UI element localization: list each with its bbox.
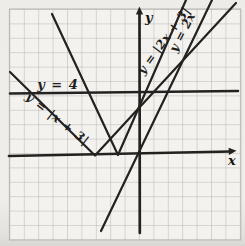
x-axis-label: x [227, 153, 236, 168]
scanned-graph-page: y = 4 y = |x + 3| y = |2x + 3| y = 2x y … [0, 0, 245, 246]
function-graph: y = 4 y = |x + 3| y = |2x + 3| y = 2x y … [0, 0, 245, 246]
label-y-equals-4: y = 4 [36, 77, 79, 92]
y-axis-label: y [144, 10, 154, 25]
